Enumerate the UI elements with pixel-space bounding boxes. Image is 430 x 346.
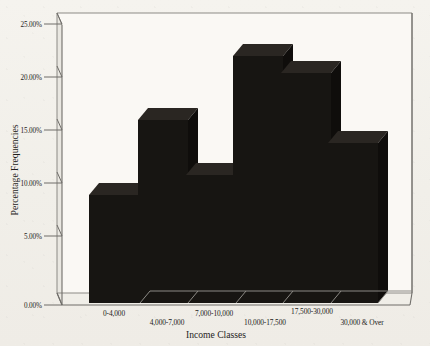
y-tick-15: 15.00%	[20, 119, 62, 135]
x-tick-label-1: 4,000-7,000	[150, 318, 185, 327]
y-axis: 25.00% 20.00% 15.00% 10.00%	[20, 13, 62, 310]
x-axis-labels: 0-4,000 4,000-7,000 7,000-10,000 10,000-…	[103, 307, 384, 327]
y-tick-label-15: 15.00%	[20, 127, 42, 135]
x-tick-label-3: 10,000-17,500	[244, 318, 286, 327]
chart-canvas: 25.00% 20.00% 15.00% 10.00%	[0, 0, 430, 346]
bar-30000-and-over[interactable]	[328, 131, 388, 303]
y-tick-label-0: 0.00%	[24, 302, 42, 310]
y-tick-label-5: 5.00%	[24, 233, 42, 241]
y-tick-20: 20.00%	[20, 66, 62, 82]
y-tick-label-25: 25.00%	[20, 21, 42, 29]
y-tick-label-10: 10.00%	[20, 180, 42, 188]
y-tick-10: 10.00%	[20, 172, 62, 188]
x-axis-title: Income Classes	[186, 329, 246, 340]
y-tick-25: 25.00%	[20, 13, 62, 29]
y-tick-0: 0.00%	[24, 293, 62, 310]
x-tick-label-4: 17,500-30,000	[291, 307, 333, 316]
y-axis-title: Percentage Frequencies	[9, 124, 20, 215]
y-tick-label-20: 20.00%	[20, 74, 42, 82]
bar-chart-3d: 25.00% 20.00% 15.00% 10.00%	[0, 0, 430, 346]
x-tick-label-5: 30,000 & Over	[340, 318, 384, 327]
x-tick-label-0: 0-4,000	[103, 309, 125, 318]
left-wall	[57, 13, 62, 305]
x-tick-label-2: 7,000-10,000	[195, 309, 234, 318]
y-tick-5: 5.00%	[24, 225, 62, 241]
